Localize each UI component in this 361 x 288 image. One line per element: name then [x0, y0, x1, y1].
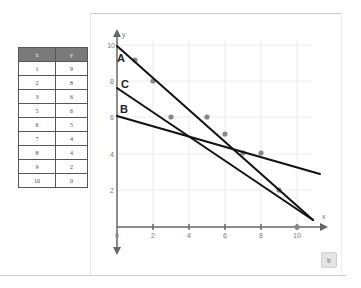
axes	[113, 29, 328, 255]
x-tick-label: 6	[223, 232, 227, 239]
line-labels: A C B	[117, 52, 129, 115]
line-b-label: B	[120, 103, 128, 115]
y-tick-label: 10	[107, 42, 115, 49]
data-point[interactable]	[204, 114, 209, 119]
x-axis-arrow-icon	[320, 223, 328, 231]
data-point[interactable]	[168, 114, 173, 119]
x-tick-label: 4	[187, 232, 191, 239]
line-a-label: A	[117, 52, 125, 64]
y-tick-label: 2	[110, 187, 114, 194]
y-axis-arrow-up-icon	[113, 29, 121, 37]
y-tick-label: 4	[110, 151, 114, 158]
expand-button[interactable]: »	[321, 252, 337, 268]
scatter-plot[interactable]: 0 2 4 6 8 10 2 4 6 8 10 x y A C B	[0, 0, 361, 288]
x-tick-label: 2	[151, 232, 155, 239]
double-chevron-down-icon: »	[324, 257, 333, 262]
data-point[interactable]	[258, 150, 263, 155]
y-axis-arrow-down-icon	[113, 247, 121, 255]
y-tick-label: 8	[110, 78, 114, 85]
fit-lines	[117, 46, 320, 220]
y-axis-label: y	[122, 31, 126, 39]
line-a[interactable]	[117, 46, 313, 220]
line-b[interactable]	[117, 116, 320, 174]
x-axis-label: x	[322, 213, 326, 220]
x-tick-label: 0	[115, 232, 119, 239]
line-c-label: C	[121, 78, 129, 90]
data-point[interactable]	[222, 131, 227, 136]
y-tick-label: 6	[110, 114, 114, 121]
x-tick-label: 8	[259, 232, 263, 239]
data-point[interactable]	[294, 224, 299, 229]
x-tick-label: 10	[293, 232, 301, 239]
